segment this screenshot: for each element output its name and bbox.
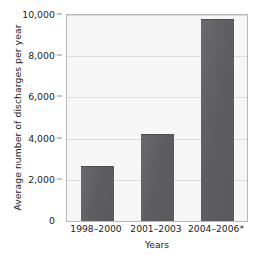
- y-axis-tick-mark: [57, 178, 62, 179]
- y-axis-tick-label: 8,000: [28, 50, 55, 61]
- x-axis-tick-label: 2001–2003: [130, 223, 181, 234]
- gridline: [67, 15, 247, 16]
- y-axis-tick-labels: 02,0004,0006,0008,00010,000: [0, 0, 66, 261]
- plot-area: [66, 14, 248, 222]
- bar: [141, 134, 174, 221]
- x-axis-tick-labels: 1998–20002001–20032004–2006*: [66, 223, 248, 239]
- y-axis-tick-label: 0: [49, 215, 55, 226]
- y-axis-tick-mark: [57, 14, 62, 15]
- bar: [201, 19, 234, 221]
- y-axis-tick-label: 2,000: [28, 173, 55, 184]
- x-axis-title: Years: [66, 239, 248, 250]
- x-axis-tick-label: 2004–2006*: [188, 223, 244, 234]
- y-axis-tick-mark: [57, 96, 62, 97]
- y-axis-tick-label: 10,000: [22, 9, 55, 20]
- bar-chart-figure: Average number of discharges per year 02…: [0, 0, 261, 261]
- x-axis-tick-label: 1998–2000: [70, 223, 121, 234]
- y-axis-tick-mark: [57, 137, 62, 138]
- y-axis-tick-label: 6,000: [28, 91, 55, 102]
- y-axis-tick-mark: [57, 55, 62, 56]
- bar: [81, 166, 114, 221]
- y-axis-tick-label: 4,000: [28, 132, 55, 143]
